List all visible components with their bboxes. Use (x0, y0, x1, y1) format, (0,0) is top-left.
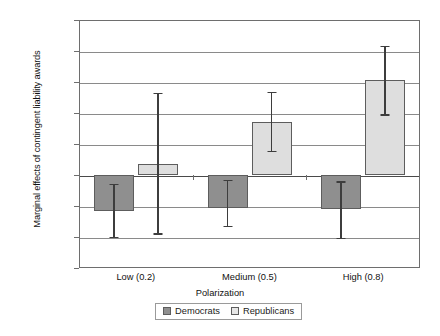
error-bar (157, 93, 158, 234)
error-bar (384, 46, 385, 114)
x-tick-label: Low (0.2) (71, 272, 201, 282)
error-bar-cap (223, 180, 232, 181)
gridline (80, 52, 419, 53)
error-bar (271, 92, 272, 151)
y-tick-mark (74, 82, 79, 83)
y-axis-title: Marginal effects of contingent liability… (32, 14, 42, 264)
error-bar-cap (381, 114, 390, 115)
legend-swatch-icon (231, 307, 239, 315)
x-axis-title: Polarization (0, 288, 440, 298)
y-tick-mark (74, 51, 79, 52)
x-tick-label: High (0.8) (298, 272, 428, 282)
error-bar-cap (153, 233, 162, 234)
error-bar-cap (337, 181, 346, 182)
chart-legend: DemocratsRepublicans (155, 303, 302, 320)
error-bar (227, 180, 228, 226)
error-bar-cap (109, 184, 118, 185)
y-tick-mark (74, 206, 79, 207)
error-bar (340, 181, 341, 237)
error-bar-cap (109, 237, 118, 238)
y-tick-mark (74, 144, 79, 145)
error-bar-cap (267, 92, 276, 93)
error-bar (113, 184, 114, 237)
legend-label: Republicans (243, 306, 294, 316)
error-bar-cap (153, 93, 162, 94)
y-tick-mark (74, 113, 79, 114)
x-tick-label: Medium (0.5) (185, 272, 315, 282)
legend-item: Republicans (231, 306, 294, 316)
error-bar-cap (223, 226, 232, 227)
legend-label: Democrats (175, 306, 220, 316)
error-bar-cap (381, 46, 390, 47)
error-bar-cap (337, 238, 346, 239)
y-tick-mark (74, 237, 79, 238)
x-tick-mark (79, 175, 80, 180)
x-tick-mark (193, 175, 194, 180)
y-tick-mark (74, 268, 79, 269)
legend-swatch-icon (163, 307, 171, 315)
x-tick-mark (306, 175, 307, 180)
legend-item: Democrats (163, 306, 220, 316)
gridline (80, 238, 419, 239)
y-tick-mark (74, 20, 79, 21)
chart-figure: Marginal effects of contingent liability… (0, 0, 440, 336)
error-bar-cap (267, 151, 276, 152)
